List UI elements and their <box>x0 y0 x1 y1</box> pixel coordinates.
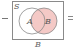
minus-sign <box>2 18 8 19</box>
equals-sign <box>68 16 73 21</box>
set-b-circle <box>31 8 57 34</box>
set-b-label: B <box>44 17 51 26</box>
venn-diagram: S A B <box>12 1 64 40</box>
universe-label: S <box>14 2 20 11</box>
set-a-label: A <box>26 17 33 26</box>
diagram-caption: B <box>35 41 41 47</box>
